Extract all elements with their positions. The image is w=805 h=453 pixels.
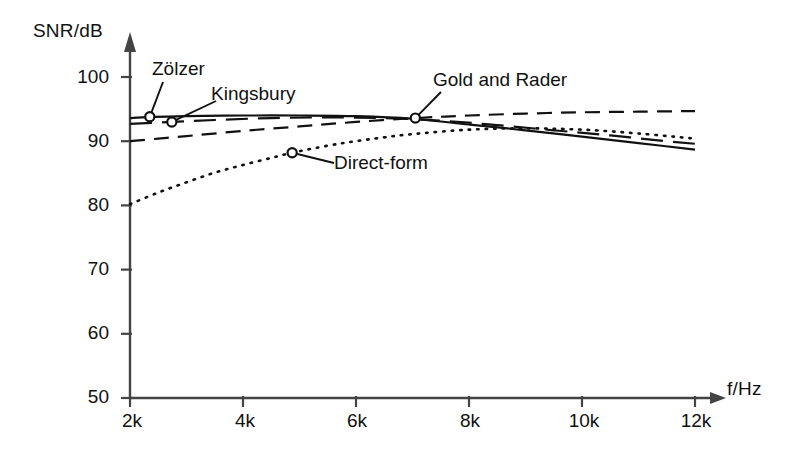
x-tick-label-2k: 2k (107, 410, 157, 432)
series-label-zolzer: Zölzer (152, 58, 205, 80)
y-tick-label-90: 90 (63, 130, 109, 152)
plot-canvas (0, 0, 805, 453)
y-tick-label-70: 70 (63, 258, 109, 280)
series-label-direct-form: Direct-form (334, 152, 428, 174)
snr-vs-frequency-chart: SNR/dB f/Hz 100 90 80 70 60 50 2k 4k 6k … (0, 0, 805, 453)
x-tick-label-6k: 6k (332, 410, 382, 432)
data-point-marker (145, 112, 154, 121)
x-tick-label-12k: 12k (667, 410, 725, 432)
data-point-marker (288, 148, 297, 157)
y-axis-title: SNR/dB (33, 20, 103, 42)
series-label-gold-and-rader: Gold and Rader (433, 69, 567, 91)
data-point-marker (411, 113, 420, 122)
data-point-marker (167, 117, 176, 126)
x-tick-label-10k: 10k (555, 410, 613, 432)
y-tick-label-50: 50 (63, 386, 109, 408)
y-tick-label-80: 80 (63, 194, 109, 216)
x-tick-label-4k: 4k (220, 410, 270, 432)
y-tick-label-60: 60 (63, 322, 109, 344)
x-tick-label-8k: 8k (445, 410, 495, 432)
y-tick-label-100: 100 (63, 66, 109, 88)
x-axis-title: f/Hz (727, 378, 762, 400)
series-label-kingsbury: Kingsbury (211, 83, 296, 105)
